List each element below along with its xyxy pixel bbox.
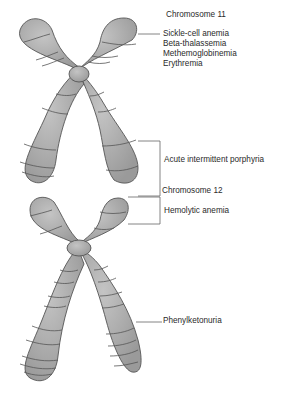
chr11-arm-upper-right: [78, 18, 137, 70]
chromosome-11: [19, 18, 138, 183]
disease-label: Acute intermittent porphyria: [164, 155, 264, 165]
chr11-arm-lower-right: [78, 70, 138, 183]
disease-label: Sickle-cell anemia: [163, 29, 229, 39]
disease-label: Erythremia: [163, 59, 203, 69]
chromosome-11-title: Chromosome 11: [166, 10, 226, 20]
disease-label: Beta-thalassemia: [163, 39, 226, 49]
disease-label: Hemolytic anemia: [164, 206, 229, 216]
chr11-porphyria-bracket: [138, 141, 160, 196]
chr11-arm-upper-left: [19, 19, 80, 70]
chr12-arm-upper-left: [30, 197, 80, 245]
disease-label: Methemoglobinemia: [163, 49, 237, 59]
chromosome-12: [25, 197, 141, 380]
chromosome-diagram: [0, 0, 286, 398]
chr11-centromere: [69, 66, 89, 82]
chr12-arm-lower-right: [78, 248, 141, 372]
chr12-arm-upper-right: [78, 198, 128, 245]
chr12-centromere: [67, 240, 91, 256]
chromosome-12-title: Chromosome 12: [162, 186, 223, 196]
disease-label: Phenylketonuria: [163, 316, 222, 326]
chr12-hemolytic-bracket: [128, 197, 160, 224]
